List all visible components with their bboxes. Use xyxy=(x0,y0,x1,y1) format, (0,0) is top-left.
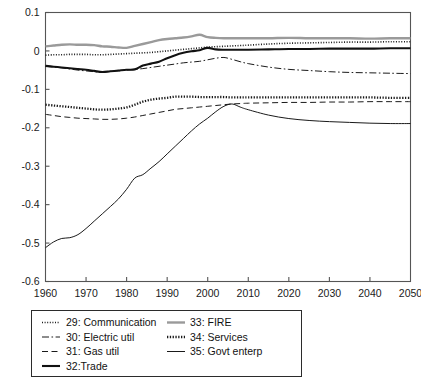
legend-label-fire: 33: FIRE xyxy=(190,316,231,328)
legend-label-communication: 29: Communication xyxy=(66,316,157,328)
x-tick-label: 2040 xyxy=(358,287,382,299)
legend-label-gas_util: 31: Gas util xyxy=(66,345,119,357)
y-tick-label: -0.3 xyxy=(21,160,39,172)
x-tick-label: 2030 xyxy=(318,287,342,299)
y-tick-label: -0.6 xyxy=(21,275,39,287)
legend-label-trade: 32:Trade xyxy=(66,360,108,372)
series-line-govt_enterp xyxy=(46,104,411,248)
line-chart: 0.10-0.1-0.2-0.3-0.4-0.5-0.6 19601970198… xyxy=(0,0,421,386)
x-tick-label: 2050 xyxy=(399,287,421,299)
x-tick-label: 1990 xyxy=(155,287,179,299)
plot-frame xyxy=(46,13,411,282)
y-axis-tick-labels: 0.10-0.1-0.2-0.3-0.4-0.5-0.6 xyxy=(21,6,39,287)
x-tick-label: 2000 xyxy=(196,287,220,299)
x-axis-tick-labels: 1960197019801990200020102020203020402050 xyxy=(34,287,421,299)
x-tick-label: 1980 xyxy=(115,287,139,299)
y-tick-label: -0.1 xyxy=(21,83,39,95)
x-tick-label: 2020 xyxy=(277,287,301,299)
series-lines xyxy=(46,35,411,248)
y-tick-label: -0.2 xyxy=(21,121,39,133)
legend-label-services: 34: Services xyxy=(190,331,248,343)
chart-figure: 0.10-0.1-0.2-0.3-0.4-0.5-0.6 19601970198… xyxy=(0,0,421,386)
series-line-trade xyxy=(46,48,411,72)
chart-legend: 29: Communication30: Electric util31: Ga… xyxy=(32,311,302,377)
x-tick-label: 1970 xyxy=(74,287,98,299)
y-tick-label: 0 xyxy=(34,45,40,57)
series-line-services xyxy=(46,97,411,110)
y-tick-label: -0.5 xyxy=(21,237,39,249)
x-tick-label: 2010 xyxy=(237,287,261,299)
legend-label-electric_util: 30: Electric util xyxy=(66,331,134,343)
x-tick-label: 1960 xyxy=(34,287,58,299)
axis-tick-marks xyxy=(46,13,370,282)
legend-label-govt_enterp: 35: Govt enterp xyxy=(190,345,263,357)
y-tick-label: 0.1 xyxy=(25,6,40,18)
y-tick-label: -0.4 xyxy=(21,198,39,210)
